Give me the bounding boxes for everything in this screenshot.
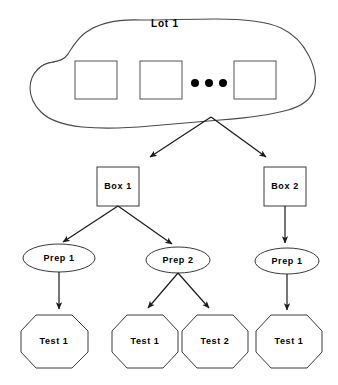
edges-preps-to-tests [59, 272, 287, 310]
prep-1-box1-label: Prep 1 [43, 253, 74, 263]
prep-1-box1-group[interactable]: Prep 1 [23, 244, 95, 272]
lot-ellipsis-icon [191, 79, 227, 87]
test-1-b-label: Test 1 [131, 336, 160, 346]
prep-1-box2-group[interactable]: Prep 1 [255, 248, 319, 274]
test-1-a-label: Test 1 [40, 336, 69, 346]
test-1-b-group[interactable]: Test 1 [112, 315, 178, 368]
edges-boxes-to-preps [63, 206, 285, 244]
test-1-c-group[interactable]: Test 1 [256, 315, 322, 368]
box-1-label: Box 1 [104, 181, 132, 191]
edge-prep-2-to-test-2 [178, 273, 209, 308]
lot-label: Lot 1 [151, 18, 179, 29]
test-2-group[interactable]: Test 2 [182, 315, 248, 368]
box-2-group[interactable]: Box 2 [264, 167, 306, 206]
prep-2-box1-label: Prep 2 [162, 255, 193, 265]
prep-2-box1-group[interactable]: Prep 2 [146, 247, 210, 273]
edge-box-1-to-prep-1 [63, 206, 118, 242]
box-1-group[interactable]: Box 1 [97, 167, 139, 206]
lot-wafer-1[interactable] [75, 61, 117, 99]
edge-prep-2-to-test-1 [148, 273, 178, 308]
diagram-canvas: Lot 1 Box 1 Box 2 [0, 0, 338, 385]
edge-box-1-to-prep-2 [118, 206, 172, 244]
diagram-root: Lot 1 Box 1 Box 2 [0, 0, 338, 385]
lot-wafer-2[interactable] [140, 61, 182, 99]
test-1-c-label: Test 1 [275, 336, 304, 346]
test-2-label: Test 2 [201, 336, 230, 346]
box-2-label: Box 2 [271, 181, 299, 191]
test-1-a-group[interactable]: Test 1 [21, 315, 88, 368]
lot-wafer-3[interactable] [234, 61, 276, 99]
prep-1-box2-label: Prep 1 [271, 256, 302, 266]
edge-lot-to-box-2 [211, 117, 266, 157]
lot-group[interactable]: Lot 1 [30, 18, 315, 128]
